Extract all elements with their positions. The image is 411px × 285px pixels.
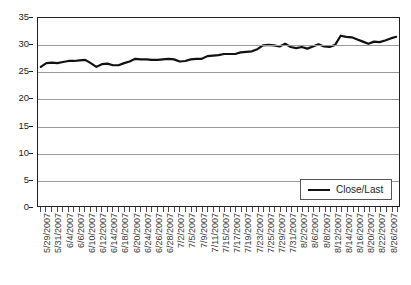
x-tick-mark — [112, 207, 113, 212]
y-tick-mark — [29, 180, 33, 181]
x-tick-label: 6/6/2007 — [77, 213, 86, 248]
gridline — [38, 72, 399, 73]
x-tick-mark — [135, 207, 136, 212]
y-tick-label: 25 — [18, 67, 29, 77]
x-tick-mark — [84, 207, 85, 212]
x-tick-mark — [174, 207, 175, 212]
x-tick-mark — [297, 207, 298, 212]
x-tick-label: 6/10/2007 — [88, 213, 97, 253]
y-tick-label: 35 — [18, 12, 29, 22]
y-tick-mark — [29, 71, 33, 72]
x-tick-mark — [235, 207, 236, 212]
y-tick-label: 15 — [18, 121, 29, 131]
x-tick-mark — [230, 207, 231, 212]
x-tick-label: 8/14/2007 — [345, 213, 354, 253]
x-tick-mark — [347, 207, 348, 212]
x-tick-mark — [353, 207, 354, 212]
x-tick-mark — [118, 207, 119, 212]
x-tick-mark — [274, 207, 275, 212]
x-tick-mark — [224, 207, 225, 212]
x-tick-label: 7/29/2007 — [278, 213, 287, 253]
x-tick-label: 7/9/2007 — [200, 213, 209, 248]
x-tick-label: 6/20/2007 — [133, 213, 142, 253]
x-tick-mark — [308, 207, 309, 212]
x-tick-mark — [313, 207, 314, 212]
x-tick-label: 6/24/2007 — [144, 213, 153, 253]
x-tick-label: 8/26/2007 — [390, 213, 399, 253]
x-tick-mark — [57, 207, 58, 212]
x-tick-mark — [168, 207, 169, 212]
gridline — [38, 99, 399, 100]
x-tick-mark — [375, 207, 376, 212]
x-tick-label: 8/8/2007 — [323, 213, 332, 248]
gridline — [38, 45, 399, 46]
x-tick-label: 6/14/2007 — [110, 213, 119, 253]
x-tick-label: 8/2/2007 — [300, 213, 309, 248]
x-tick-label: 8/20/2007 — [367, 213, 376, 253]
x-tick-mark — [380, 207, 381, 212]
x-tick-mark — [101, 207, 102, 212]
y-tick-mark — [29, 17, 33, 18]
x-tick-mark — [258, 207, 259, 212]
x-tick-mark — [325, 207, 326, 212]
x-tick-mark — [330, 207, 331, 212]
x-tick-mark — [129, 207, 130, 212]
x-tick-mark — [40, 207, 41, 212]
x-tick-label: 6/12/2007 — [99, 213, 108, 253]
x-tick-mark — [358, 207, 359, 212]
x-tick-mark — [386, 207, 387, 212]
x-tick-mark — [146, 207, 147, 212]
legend: Close/Last — [300, 179, 392, 200]
x-tick-mark — [319, 207, 320, 212]
series-close-last — [38, 18, 399, 206]
x-axis-ticks — [37, 207, 400, 212]
x-tick-mark — [280, 207, 281, 212]
legend-line-swatch — [308, 189, 330, 191]
x-tick-label: 6/4/2007 — [66, 213, 75, 248]
line-chart: 05101520253035 5/29/20075/31/20076/4/200… — [0, 0, 411, 285]
x-tick-mark — [246, 207, 247, 212]
x-tick-mark — [107, 207, 108, 212]
x-tick-mark — [140, 207, 141, 212]
x-tick-mark — [364, 207, 365, 212]
x-tick-label: 7/25/2007 — [267, 213, 276, 253]
x-tick-mark — [302, 207, 303, 212]
x-tick-label: 8/6/2007 — [311, 213, 320, 248]
x-tick-label: 7/17/2007 — [233, 213, 242, 253]
x-tick-mark — [341, 207, 342, 212]
x-tick-mark — [151, 207, 152, 212]
x-tick-label: 5/31/2007 — [54, 213, 63, 253]
y-axis: 05101520253035 — [0, 17, 33, 207]
x-tick-mark — [202, 207, 203, 212]
x-tick-mark — [79, 207, 80, 212]
x-tick-mark — [291, 207, 292, 212]
y-tick-label: 30 — [18, 39, 29, 49]
x-tick-label: 7/31/2007 — [289, 213, 298, 253]
y-tick-label: 10 — [18, 148, 29, 158]
x-tick-mark — [241, 207, 242, 212]
x-tick-label: 7/23/2007 — [256, 213, 265, 253]
y-tick-mark — [29, 98, 33, 99]
x-tick-mark — [157, 207, 158, 212]
legend-label: Close/Last — [336, 185, 383, 195]
y-tick-mark — [29, 44, 33, 45]
x-tick-mark — [73, 207, 74, 212]
x-tick-label: 6/28/2007 — [166, 213, 175, 253]
x-tick-mark — [369, 207, 370, 212]
x-tick-mark — [191, 207, 192, 212]
x-tick-mark — [185, 207, 186, 212]
x-axis: 5/29/20075/31/20076/4/20076/6/20076/10/2… — [37, 213, 400, 283]
x-tick-mark — [51, 207, 52, 212]
x-tick-label: 6/26/2007 — [155, 213, 164, 253]
x-tick-label: 7/5/2007 — [188, 213, 197, 248]
x-tick-mark — [124, 207, 125, 212]
x-tick-mark — [263, 207, 264, 212]
x-tick-label: 8/16/2007 — [356, 213, 365, 253]
x-tick-label: 7/2/2007 — [177, 213, 186, 248]
x-tick-mark — [392, 207, 393, 212]
x-tick-label: 7/19/2007 — [244, 213, 253, 253]
x-tick-mark — [252, 207, 253, 212]
series-line — [41, 36, 396, 67]
x-tick-label: 8/12/2007 — [334, 213, 343, 253]
y-tick-mark — [29, 207, 33, 208]
